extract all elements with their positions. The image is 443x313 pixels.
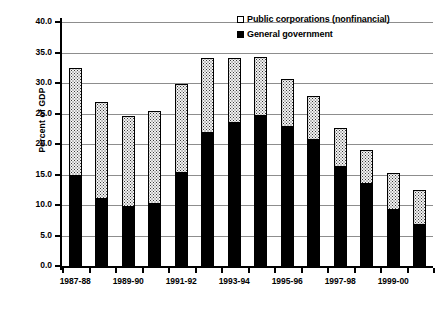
x-tick-mark xyxy=(195,268,197,273)
x-tick-mark xyxy=(115,268,117,273)
bar-segment-general-government[interactable] xyxy=(69,175,82,266)
bar-segment-public-corporations[interactable] xyxy=(360,150,373,184)
bar-group[interactable] xyxy=(175,83,188,266)
x-tick-label: 1997-98 xyxy=(310,276,370,286)
bar-segment-public-corporations[interactable] xyxy=(69,68,82,176)
bar-group[interactable] xyxy=(307,95,320,266)
bar-segment-general-government[interactable] xyxy=(360,183,373,266)
x-tick-mark xyxy=(142,268,144,273)
x-tick-mark xyxy=(221,268,223,273)
bar-group[interactable] xyxy=(148,110,161,266)
bar-segment-general-government[interactable] xyxy=(334,166,347,266)
bar-series-container xyxy=(62,22,433,266)
y-tick-mark xyxy=(55,235,61,237)
x-tick-mark xyxy=(248,268,250,273)
bar-segment-general-government[interactable] xyxy=(122,206,135,266)
bar-segment-public-corporations[interactable] xyxy=(175,84,188,173)
legend-item[interactable]: General government xyxy=(237,27,437,41)
x-tick-mark xyxy=(89,268,91,273)
bar-group[interactable] xyxy=(413,189,426,266)
bar-segment-public-corporations[interactable] xyxy=(334,128,347,167)
legend-swatch-general-government-icon xyxy=(237,31,244,38)
bar-segment-public-corporations[interactable] xyxy=(307,96,320,140)
y-tick-mark xyxy=(55,265,61,267)
y-tick-label: 25.0 xyxy=(18,109,52,118)
x-tick-mark xyxy=(62,268,64,273)
y-tick-label: 5.0 xyxy=(18,231,52,240)
x-tick-label: 1999-00 xyxy=(363,276,423,286)
bar-segment-general-government[interactable] xyxy=(281,126,294,266)
x-tick-mark xyxy=(433,268,435,273)
x-tick-mark xyxy=(380,268,382,273)
x-tick-label: 1987-88 xyxy=(45,276,105,286)
bar-group[interactable] xyxy=(360,149,373,266)
bar-segment-public-corporations[interactable] xyxy=(413,190,426,225)
bar-segment-general-government[interactable] xyxy=(95,198,108,266)
y-tick-label: 40.0 xyxy=(18,17,52,26)
bar-segment-general-government[interactable] xyxy=(307,139,320,266)
bar-segment-public-corporations[interactable] xyxy=(387,173,400,210)
legend-item[interactable]: Public corporations (nonfinancial) xyxy=(237,12,437,26)
legend-swatch-public-corporations-icon xyxy=(237,16,244,23)
bar-segment-general-government[interactable] xyxy=(254,115,267,266)
x-tick-mark xyxy=(168,268,170,273)
x-tick-label: 1989-90 xyxy=(98,276,158,286)
chart-legend: Public corporations (nonfinancial)Genera… xyxy=(237,12,437,42)
bar-group[interactable] xyxy=(228,57,241,266)
x-tick-mark xyxy=(274,268,276,273)
legend-label: General government xyxy=(247,29,333,39)
bar-segment-public-corporations[interactable] xyxy=(148,111,161,204)
y-tick-mark xyxy=(55,143,61,145)
bar-segment-public-corporations[interactable] xyxy=(122,116,135,208)
bar-group[interactable] xyxy=(281,78,294,266)
bar-segment-public-corporations[interactable] xyxy=(254,57,267,116)
bar-segment-public-corporations[interactable] xyxy=(201,58,214,134)
bar-segment-general-government[interactable] xyxy=(228,122,241,266)
y-tick-mark xyxy=(55,204,61,206)
y-tick-label: 20.0 xyxy=(18,139,52,148)
bar-group[interactable] xyxy=(122,115,135,266)
x-tick-mark xyxy=(354,268,356,273)
y-tick-label: 0.0 xyxy=(18,261,52,270)
y-tick-mark xyxy=(55,52,61,54)
y-tick-label: 15.0 xyxy=(18,170,52,179)
bar-segment-general-government[interactable] xyxy=(175,172,188,266)
plot-area: 0.05.010.015.020.025.030.035.040.0 1987-… xyxy=(62,22,433,266)
y-tick-mark xyxy=(55,113,61,115)
bar-segment-general-government[interactable] xyxy=(413,224,426,266)
legend-label: Public corporations (nonfinancial) xyxy=(247,14,390,24)
bar-group[interactable] xyxy=(69,67,82,266)
bar-group[interactable] xyxy=(387,172,400,266)
bar-group[interactable] xyxy=(254,56,267,266)
bar-group[interactable] xyxy=(334,127,347,266)
bar-group[interactable] xyxy=(201,57,214,266)
x-tick-label: 1991-92 xyxy=(151,276,211,286)
y-tick-label: 35.0 xyxy=(18,48,52,57)
bar-segment-public-corporations[interactable] xyxy=(95,102,108,199)
y-tick-mark xyxy=(55,21,61,23)
bar-segment-public-corporations[interactable] xyxy=(281,79,294,127)
x-tick-mark xyxy=(301,268,303,273)
bar-segment-general-government[interactable] xyxy=(148,203,161,266)
y-tick-mark xyxy=(55,174,61,176)
bar-segment-public-corporations[interactable] xyxy=(228,58,241,123)
x-tick-label: 1995-96 xyxy=(257,276,317,286)
y-tick-label: 30.0 xyxy=(18,78,52,87)
x-tick-mark xyxy=(407,268,409,273)
y-tick-mark xyxy=(55,82,61,84)
bar-group[interactable] xyxy=(95,101,108,266)
y-tick-label: 10.0 xyxy=(18,200,52,209)
bar-segment-general-government[interactable] xyxy=(387,209,400,266)
stacked-bar-chart: Percent of GDP 0.05.010.015.020.025.030.… xyxy=(0,0,443,313)
x-tick-label: 1993-94 xyxy=(204,276,264,286)
x-tick-mark xyxy=(327,268,329,273)
bar-segment-general-government[interactable] xyxy=(201,132,214,266)
